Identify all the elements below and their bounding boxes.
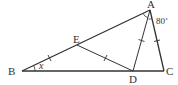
label-D: D — [129, 73, 137, 85]
angle-arc-B — [34, 65, 35, 71]
label-B: B — [8, 65, 15, 77]
geometry-diagram: A B C D E 80˚ x — [0, 0, 178, 85]
angle-label-x: x — [38, 60, 44, 71]
label-E: E — [73, 33, 80, 45]
label-A: A — [147, 0, 155, 10]
angle-arc-A-BAD — [143, 14, 148, 18]
label-C: C — [166, 65, 173, 77]
angle-label-80: 80˚ — [156, 16, 168, 26]
